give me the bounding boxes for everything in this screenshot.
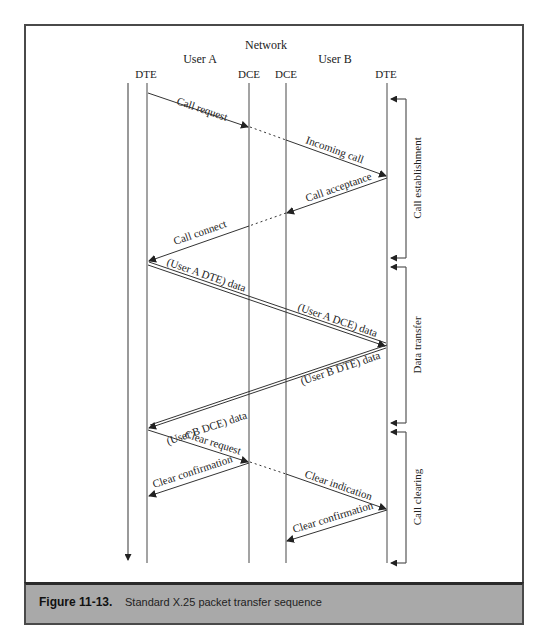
dte-b-label: DTE	[375, 68, 397, 80]
network-label: Network	[245, 38, 287, 52]
figure-caption: Standard X.25 packet transfer sequence	[125, 596, 322, 608]
bracket-call-clearing	[391, 432, 406, 563]
label-clear-confirmation-b: Clear confirmation	[291, 499, 375, 535]
label-clear-confirmation-a: Clear confirmation	[151, 452, 234, 490]
figure-number: Figure 11-13.	[39, 595, 112, 609]
figure-caption-bar: Figure 11-13. Standard X.25 packet trans…	[24, 582, 524, 625]
label-user-b-dte-data: (User B DTE) data	[299, 349, 382, 388]
sequence-diagram: Network User A User B DTE DCE DCE DTE Ca…	[0, 0, 544, 626]
bracket-data-transfer	[391, 267, 406, 423]
user-a-label: User A	[183, 52, 217, 66]
arrow-user-a-data	[148, 262, 386, 346]
label-call-request: Call request	[175, 95, 229, 123]
dte-a-label: DTE	[135, 68, 157, 80]
network-dotted-3	[250, 462, 286, 474]
phase-label-call-establishment: Call establishment	[411, 137, 423, 219]
phase-label-data-transfer: Data transfer	[411, 316, 423, 373]
bracket-call-establishment	[391, 99, 406, 258]
dce-b-label: DCE	[275, 68, 297, 80]
dce-a-label: DCE	[238, 68, 260, 80]
label-clear-indication: Clear indication	[303, 468, 374, 503]
label-call-connect: Call connect	[172, 217, 228, 247]
network-dotted-2	[249, 213, 286, 226]
user-b-label: User B	[318, 52, 352, 66]
network-dotted-1	[250, 127, 286, 140]
phase-label-call-clearing: Call clearing	[411, 468, 423, 525]
